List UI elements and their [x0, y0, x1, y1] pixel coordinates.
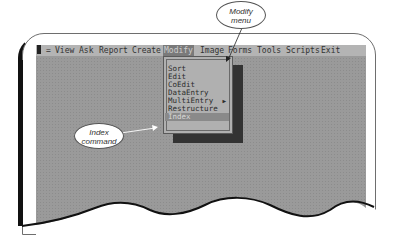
- callout-line: Modify: [217, 7, 265, 16]
- callout-line: command: [75, 137, 123, 146]
- callout-line: menu: [217, 16, 265, 25]
- callout-line: Index: [75, 128, 123, 137]
- modify-menu-callout: Modify menu: [216, 1, 266, 29]
- torn-edge-decoration: [0, 0, 396, 235]
- index-command-callout: Index command: [74, 123, 124, 149]
